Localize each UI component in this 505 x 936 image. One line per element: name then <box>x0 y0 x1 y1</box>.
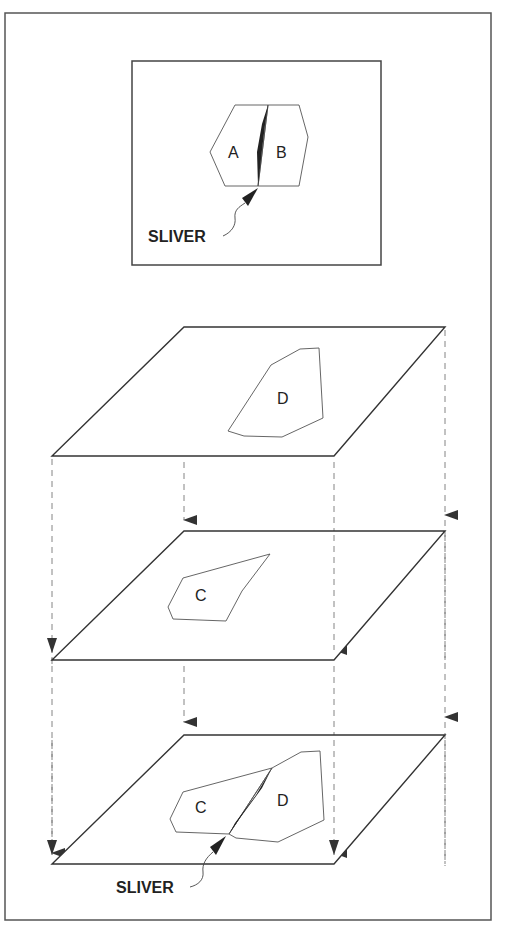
label-c-layer2: C <box>195 587 207 604</box>
label-d-layer1: D <box>277 390 289 407</box>
inset-box: A B SLIVER <box>132 61 381 265</box>
label-a: A <box>228 144 239 161</box>
label-b: B <box>276 144 287 161</box>
layer-3: C D <box>47 735 445 864</box>
overlay-diagram: A B SLIVER D C C D <box>0 0 505 936</box>
layer-1: D <box>52 327 445 456</box>
layer3-sliver-label: SLIVER <box>116 879 174 896</box>
label-c-layer3: C <box>195 799 207 816</box>
inset-sliver-label: SLIVER <box>148 228 206 245</box>
label-d-layer3: D <box>277 792 289 809</box>
inset-callout-leader <box>223 203 245 236</box>
arrow-left-layer2 <box>47 638 57 653</box>
layer-2: C <box>52 531 445 660</box>
